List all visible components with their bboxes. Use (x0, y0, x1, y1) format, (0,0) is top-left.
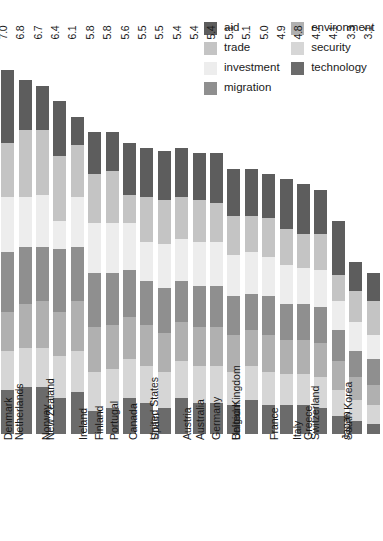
bar-segment-trade[interactable] (123, 195, 136, 224)
bar-column[interactable]: 6.1 (70, 34, 86, 434)
bar-segment-investment[interactable] (262, 257, 275, 296)
bar-segment-aid[interactable] (158, 151, 171, 200)
bar-segment-trade[interactable] (280, 229, 293, 265)
bar-segment-trade[interactable] (367, 301, 380, 335)
bar-segment-migration[interactable] (297, 304, 310, 340)
bar-column[interactable]: 5.4 (174, 34, 190, 434)
bar-segment-security[interactable] (245, 366, 258, 400)
bar-segment-migration[interactable] (1, 252, 14, 312)
bar-segment-investment[interactable] (314, 270, 327, 306)
bar-column[interactable]: 5.8 (104, 34, 120, 434)
bar-segment-investment[interactable] (227, 255, 240, 297)
bar-segment-trade[interactable] (193, 200, 206, 242)
bar-segment-aid[interactable] (1, 70, 14, 143)
bar-segment-trade[interactable] (332, 275, 345, 301)
bar-segment-migration[interactable] (175, 281, 188, 323)
bar-segment-environment[interactable] (19, 304, 32, 348)
bar-segment-investment[interactable] (88, 223, 101, 272)
bar-segment-environment[interactable] (53, 312, 66, 356)
bar-column[interactable]: 4.8 (296, 34, 312, 434)
bar-segment-environment[interactable] (175, 322, 188, 361)
bar-segment-migration[interactable] (71, 247, 84, 302)
bar-column[interactable]: 5.1 (243, 34, 259, 434)
bar-segment-security[interactable] (193, 366, 206, 402)
bar-segment-trade[interactable] (314, 234, 327, 270)
bar-segment-security[interactable] (175, 361, 188, 397)
bar-column[interactable]: 5.6 (122, 34, 138, 434)
bar-segment-trade[interactable] (262, 218, 275, 257)
bar-segment-security[interactable] (280, 374, 293, 405)
bar-segment-migration[interactable] (106, 273, 119, 325)
bar-segment-trade[interactable] (88, 174, 101, 223)
bar-segment-technology[interactable] (367, 424, 380, 434)
bar-column[interactable]: 4.7 (313, 34, 329, 434)
bar-segment-migration[interactable] (36, 247, 49, 302)
bar-segment-aid[interactable] (53, 101, 66, 156)
bar-column[interactable]: 5.5 (139, 34, 155, 434)
bar-column[interactable]: 5.4 (191, 34, 207, 434)
bar-segment-environment[interactable] (210, 327, 223, 366)
bar-segment-investment[interactable] (36, 195, 49, 247)
bar-segment-migration[interactable] (227, 296, 240, 335)
bar-segment-investment[interactable] (210, 242, 223, 286)
bar-segment-aid[interactable] (193, 153, 206, 200)
bar-segment-investment[interactable] (297, 268, 310, 304)
bar-segment-aid[interactable] (36, 86, 49, 130)
bar-segment-investment[interactable] (158, 244, 171, 288)
bar-segment-environment[interactable] (36, 301, 49, 348)
bar-segment-aid[interactable] (332, 221, 345, 276)
bar-segment-migration[interactable] (210, 286, 223, 328)
bar-segment-investment[interactable] (106, 223, 119, 272)
bar-segment-security[interactable] (367, 405, 380, 423)
bar-segment-trade[interactable] (227, 216, 240, 255)
bar-segment-trade[interactable] (245, 216, 258, 252)
bar-segment-environment[interactable] (297, 340, 310, 374)
bar-segment-investment[interactable] (1, 197, 14, 252)
bar-column[interactable]: 5.4 (209, 34, 225, 434)
bar-segment-migration[interactable] (193, 286, 206, 328)
bar-column[interactable]: 6.7 (35, 34, 51, 434)
bar-segment-investment[interactable] (332, 301, 345, 330)
bar-segment-aid[interactable] (71, 117, 84, 146)
bar-segment-environment[interactable] (280, 340, 293, 374)
bar-segment-aid[interactable] (367, 273, 380, 302)
bar-segment-security[interactable] (262, 372, 275, 406)
bar-segment-aid[interactable] (175, 148, 188, 197)
bar-segment-environment[interactable] (193, 327, 206, 366)
bar-segment-aid[interactable] (314, 190, 327, 234)
bar-segment-investment[interactable] (19, 197, 32, 246)
bar-segment-trade[interactable] (36, 130, 49, 195)
bar-segment-investment[interactable] (280, 265, 293, 304)
bar-column[interactable]: 4.9 (278, 34, 294, 434)
bar-segment-trade[interactable] (106, 171, 119, 223)
bar-segment-aid[interactable] (88, 132, 101, 174)
bar-segment-investment[interactable] (193, 242, 206, 286)
bar-segment-investment[interactable] (53, 221, 66, 250)
bar-column[interactable]: 6.8 (17, 34, 33, 434)
bar-segment-aid[interactable] (227, 169, 240, 216)
bar-segment-migration[interactable] (280, 304, 293, 340)
bar-segment-investment[interactable] (245, 252, 258, 294)
bar-segment-migration[interactable] (88, 273, 101, 328)
bar-segment-migration[interactable] (19, 247, 32, 304)
bar-segment-security[interactable] (19, 348, 32, 387)
bar-segment-aid[interactable] (106, 132, 119, 171)
bar-segment-aid[interactable] (123, 143, 136, 195)
bar-segment-security[interactable] (71, 351, 84, 393)
bar-segment-aid[interactable] (245, 169, 258, 216)
bar-segment-trade[interactable] (349, 291, 362, 322)
bar-segment-aid[interactable] (297, 184, 310, 233)
bar-segment-migration[interactable] (53, 249, 66, 311)
bar-column[interactable]: 6.4 (52, 34, 68, 434)
bar-segment-migration[interactable] (367, 359, 380, 385)
bar-segment-trade[interactable] (1, 143, 14, 198)
bar-segment-environment[interactable] (140, 325, 153, 367)
bar-segment-aid[interactable] (349, 262, 362, 291)
bar-segment-migration[interactable] (262, 296, 275, 335)
bar-segment-migration[interactable] (140, 281, 153, 325)
bar-segment-trade[interactable] (19, 130, 32, 198)
bar-segment-technology[interactable] (245, 400, 258, 434)
bar-column[interactable]: 5.0 (261, 34, 277, 434)
bar-segment-investment[interactable] (140, 242, 153, 281)
bar-column[interactable]: 5.5 (157, 34, 173, 434)
